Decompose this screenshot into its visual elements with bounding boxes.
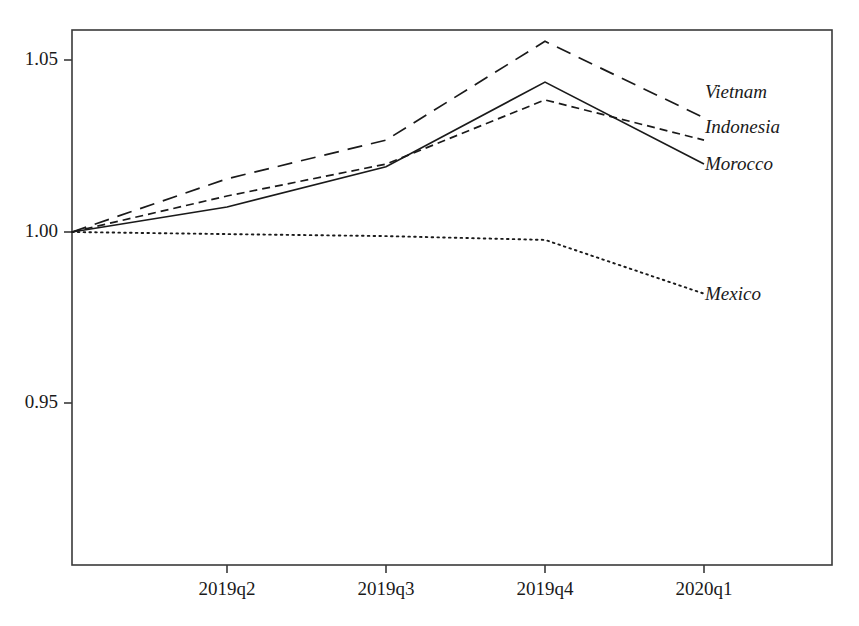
series-label-indonesia: Indonesia [705,116,780,138]
chart-figure: 1.05 1.00 0.95 2019q2 2019q3 2019q4 2020… [0,0,859,626]
series-line-mexico [72,232,704,294]
y-tick-label-0-95: 0.95 [0,391,58,413]
x-tick-label-2019q2: 2019q2 [167,578,287,600]
series-line-vietnam [72,41,704,232]
y-tick-label-1-05: 1.05 [0,48,58,70]
y-tick-label-1-00: 1.00 [0,220,58,242]
series-label-mexico: Mexico [705,283,761,305]
series-label-morocco: Morocco [705,153,773,175]
series-label-vietnam: Vietnam [705,81,767,103]
x-tick-label-2019q4: 2019q4 [485,578,605,600]
y-axis-ticks [64,60,72,403]
x-tick-label-2019q3: 2019q3 [326,578,446,600]
x-tick-label-2020q1: 2020q1 [644,578,764,600]
x-axis-ticks [227,565,704,573]
